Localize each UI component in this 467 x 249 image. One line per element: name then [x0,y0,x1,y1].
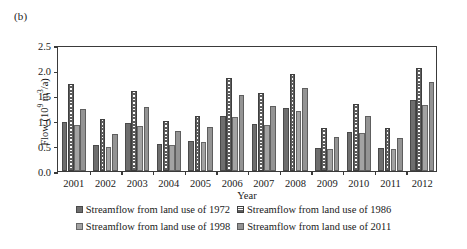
bar [422,105,428,171]
bar [397,138,403,171]
bar [252,124,258,171]
bar [416,68,422,171]
bar [232,117,238,171]
bar [347,132,353,171]
bar [378,148,384,171]
plot-area: Flow (109 m3/a) 0.00.51.01.52.02.5 20012… [57,46,437,172]
bar [169,145,175,171]
legend-label: Streamflow from land use of 1972 [86,203,230,217]
x-tick-label: 2005 [190,177,211,190]
x-tick-label: 2002 [95,177,116,190]
x-tick-mark [248,171,249,175]
y-tick-label: 2.5 [38,40,51,54]
bar [385,128,391,171]
bar [125,123,131,171]
bar [290,74,296,171]
bar [334,137,340,171]
bar-group [280,47,312,171]
x-tick-mark [311,171,312,175]
bar [207,127,213,171]
bar [68,84,74,171]
bar [327,149,333,171]
legend-entry[interactable]: Streamflow from land use of 1972 [76,203,230,217]
bar [144,107,150,171]
y-tick-label: 0.5 [38,141,51,155]
legend-swatch-icon [237,223,244,230]
x-tick-label: 2006 [222,177,243,190]
bar-group [58,47,90,171]
bar [131,91,137,171]
legend-swatch-icon [76,223,83,230]
x-tick-label: 2011 [380,177,401,190]
bar [100,119,106,171]
x-tick-mark [185,171,186,175]
bar [157,144,163,171]
bar [258,93,264,171]
bar [270,106,276,171]
legend-label: Streamflow from land use of 1998 [86,220,230,234]
bar-group [343,47,375,171]
bar [106,147,112,171]
bar [188,141,194,171]
bar [321,128,327,171]
bar [175,131,181,171]
x-tick-label: 2009 [317,177,338,190]
bar [429,82,435,171]
figure-panel-b: (b) Flow (109 m3/a) 0.00.51.01.52.02.5 2… [0,0,467,249]
bar [264,125,270,171]
x-tick-mark [406,171,407,175]
bar [302,88,308,171]
legend-label: Streamflow from land use of 1986 [247,203,391,217]
y-tick-label: 1.5 [38,90,51,104]
x-tick-label: 2004 [158,177,179,190]
y-tick-label: 0.0 [38,166,51,180]
bar [137,126,143,171]
bar-group [121,47,153,171]
panel-label: (b) [14,10,27,22]
bar-group [216,47,248,171]
bar [365,116,371,171]
legend-entry[interactable]: Streamflow from land use of 1998 [76,220,230,234]
bar [93,145,99,171]
x-tick-mark [90,171,91,175]
bar [359,133,365,171]
y-tick-label: 1.0 [38,116,51,130]
bar-group [185,47,217,171]
bar [112,134,118,171]
legend-entry[interactable]: Streamflow from land use of 2011 [237,220,391,234]
legend-label: Streamflow from land use of 2011 [247,220,391,234]
bar [220,116,226,171]
x-axis-title: Year [57,190,437,201]
bar [195,116,201,171]
bar [62,122,68,171]
bar [283,108,289,171]
bar-group [90,47,122,171]
bar-group [248,47,280,171]
x-tick-mark [121,171,122,175]
bar [163,121,169,171]
x-tick-mark [280,171,281,175]
bar [80,109,86,171]
bar [410,100,416,171]
legend-row-2: Streamflow from land use of 1998Streamfl… [0,218,467,235]
y-axis-title-suffix: /a) [39,78,50,89]
x-tick-mark [153,171,154,175]
x-tick-mark [375,171,376,175]
x-tick-label: 2001 [63,177,84,190]
bar [201,142,207,171]
bar [296,111,302,171]
x-tick-mark [216,171,217,175]
x-tick-mark [343,171,344,175]
legend-row-1: Streamflow from land use of 1972Streamfl… [0,201,467,218]
bar [239,95,245,171]
y-axis-exponent-9: 9 [36,104,45,108]
bar-group [311,47,343,171]
legend-entry[interactable]: Streamflow from land use of 1986 [237,203,391,217]
x-tick-label: 2010 [348,177,369,190]
y-tick-mark [54,172,58,173]
bar [353,104,359,171]
chart-legend: Streamflow from land use of 1972Streamfl… [0,201,467,235]
y-tick-label: 2.0 [38,65,51,79]
legend-swatch-icon [76,206,83,213]
bar [226,78,232,171]
